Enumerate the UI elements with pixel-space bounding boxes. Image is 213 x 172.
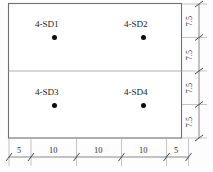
- sensor-dot-4-sd4[interactable]: [141, 103, 146, 108]
- dimension-text-right-2: 7.5: [186, 50, 194, 60]
- sensor-label-4-sd1: 4-SD1: [35, 20, 59, 29]
- dimension-text-bottom-3: 10: [94, 147, 102, 155]
- sensor-dot-4-sd1[interactable]: [52, 35, 57, 40]
- dimension-text-right-1: 7.5: [186, 16, 194, 26]
- drawing-canvas: 4-SD1 4-SD2 4-SD3 4-SD4 5 10 10 10 5 7.5…: [0, 0, 213, 172]
- dimension-text-right-3: 7.5: [186, 83, 194, 93]
- dimension-text-bottom-5: 5: [174, 147, 178, 155]
- dimension-text-bottom-2: 10: [49, 147, 57, 155]
- sensor-label-4-sd4: 4-SD4: [124, 88, 148, 97]
- sensor-label-4-sd2: 4-SD2: [124, 20, 148, 29]
- sensor-dot-4-sd2[interactable]: [141, 35, 146, 40]
- dimension-text-right-4: 7.5: [186, 117, 194, 127]
- technical-drawing: [0, 0, 213, 172]
- sensor-dot-4-sd3[interactable]: [52, 103, 57, 108]
- dimension-text-bottom-1: 5: [17, 147, 21, 155]
- dimension-text-bottom-4: 10: [139, 147, 147, 155]
- sensor-label-4-sd3: 4-SD3: [35, 88, 59, 97]
